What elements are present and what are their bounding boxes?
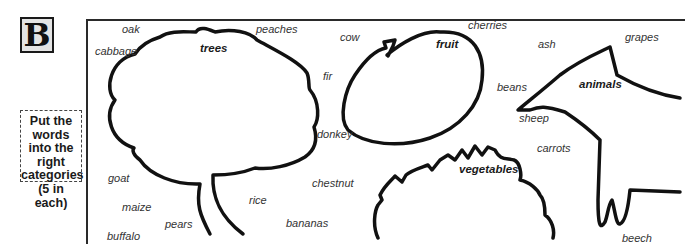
word-donkey: donkey [317,128,352,140]
word-fir: fir [323,70,332,82]
category-label-animals: animals [579,78,622,90]
word-chestnut: chestnut [312,177,354,189]
word-oak: oak [122,23,140,35]
word-beech: beech [622,232,652,244]
category-label-trees: trees [200,42,228,54]
word-bananas: bananas [286,217,328,229]
word-grapes: grapes [625,31,659,43]
word-sheep: sheep [519,112,549,124]
apple-outline-icon [343,32,482,144]
word-carrots: carrots [537,142,571,154]
word-peaches: peaches [256,23,298,35]
category-label-fruit: fruit [436,38,458,50]
word-buffalo: buffalo [107,230,140,242]
vegetables-outline-icon [375,146,554,238]
category-label-vegetables: vegetables [459,163,518,175]
word-cherries: cherries [468,19,507,31]
word-cow: cow [340,31,360,43]
word-ash: ash [538,38,556,50]
word-pears: pears [165,218,193,230]
word-beans: beans [497,81,527,93]
word-rice: rice [249,194,267,206]
word-cabbage: cabbage [95,45,137,57]
word-maize: maize [122,201,151,213]
word-goat: goat [108,172,129,184]
